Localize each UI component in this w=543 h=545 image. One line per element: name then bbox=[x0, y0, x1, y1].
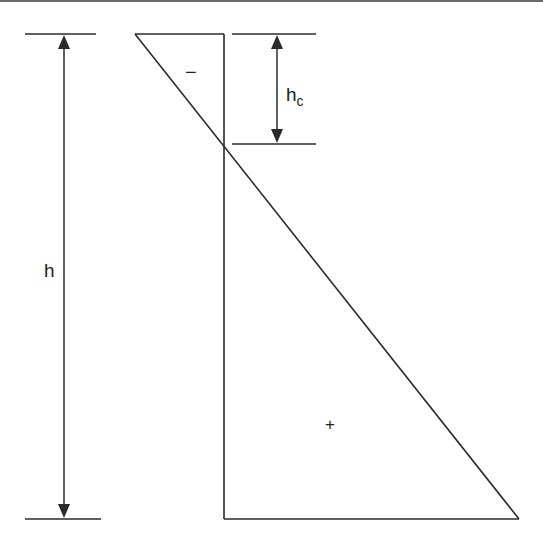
hc-label-subscript: c bbox=[297, 93, 304, 109]
hc-arrow-down-icon bbox=[271, 129, 283, 143]
h-arrow-down-icon bbox=[58, 504, 70, 518]
hc-arrow-up-icon bbox=[271, 35, 283, 49]
hc-label: hc bbox=[286, 84, 304, 109]
height-dimension: h bbox=[25, 34, 101, 519]
shape-diagonal bbox=[135, 34, 519, 519]
diagram-canvas: h − + hc bbox=[0, 0, 543, 545]
stress-shape bbox=[135, 34, 519, 519]
negative-sign: − bbox=[185, 61, 197, 83]
stress-diagram: h − + hc bbox=[0, 0, 543, 545]
compression-depth-dimension: hc bbox=[232, 34, 316, 144]
h-arrow-up-icon bbox=[58, 35, 70, 49]
hc-label-main: h bbox=[286, 84, 297, 105]
h-label: h bbox=[44, 260, 55, 281]
positive-sign: + bbox=[325, 415, 335, 434]
